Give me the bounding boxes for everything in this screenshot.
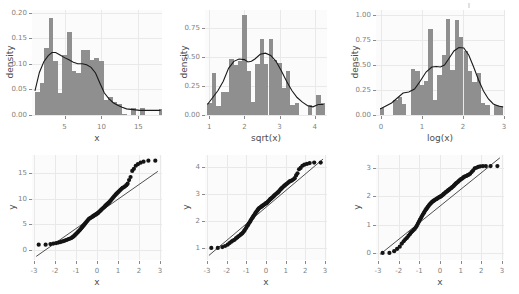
y-axis-tick-mark: [373, 253, 376, 254]
x-axis-tick-label: 3: [490, 267, 514, 275]
data-point: [495, 164, 499, 168]
y-axis-tick-mark: [373, 225, 376, 226]
y-axis-tick-mark: [373, 168, 376, 169]
y-axis-title: y: [352, 187, 362, 227]
x-axis-tick-mark: [461, 261, 462, 264]
figure-canvas: 0.000.050.100.150.2051015xdensity0.000.2…: [0, 0, 519, 294]
data-point: [381, 251, 385, 255]
x-axis-tick-mark: [399, 261, 400, 264]
x-axis-tick-mark: [440, 261, 441, 264]
panel-qq-log-x: 0123-3-2-10123xy: [0, 0, 519, 294]
x-axis-tick-mark: [378, 261, 379, 264]
data-point: [484, 164, 488, 168]
y-axis-tick-mark: [373, 196, 376, 197]
x-axis-tick-mark: [419, 261, 420, 264]
y-axis-tick-label: 3: [346, 164, 371, 172]
qq-reference-line: [380, 158, 500, 254]
x-axis-tick-mark: [481, 261, 482, 264]
x-axis-tick-mark: [502, 261, 503, 264]
plot-area-qq-log-x: [376, 155, 504, 260]
x-axis-title: x: [376, 277, 504, 287]
vector-overlay-qq-log-x: [376, 155, 504, 260]
data-point: [488, 164, 492, 168]
data-point: [387, 251, 391, 255]
y-axis-tick-label: 0: [346, 249, 371, 257]
